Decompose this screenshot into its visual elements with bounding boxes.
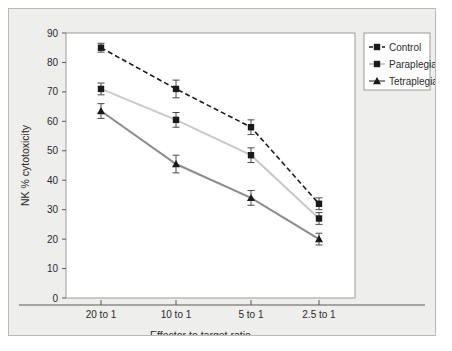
data-point-marker	[98, 45, 104, 51]
y-axis: 0102030405060708090	[47, 28, 66, 304]
x-axis-tick-label: 10 to 1	[161, 309, 192, 320]
nk-cytotoxicity-chart: 0102030405060708090NK % cytotoxicity20 t…	[9, 9, 435, 335]
data-point-marker	[248, 124, 254, 130]
legend-label: Tetraplegia	[389, 76, 435, 87]
y-axis-tick-label: 10	[47, 263, 59, 274]
y-axis-tick-label: 30	[47, 204, 59, 215]
y-axis-tick-label: 40	[47, 175, 59, 186]
data-point-marker	[248, 152, 254, 158]
legend-marker	[374, 61, 380, 67]
x-axis: 20 to 110 to 15 to 12.5 to 1	[19, 300, 425, 320]
y-axis-tick-label: 80	[47, 57, 59, 68]
plot-area-background	[66, 33, 355, 298]
legend-label: Control	[389, 42, 421, 53]
y-axis-title: NK % cytotoxicity	[19, 124, 31, 206]
y-axis-tick-label: 50	[47, 145, 59, 156]
legend-marker	[374, 44, 380, 50]
legend: ControlParaplegiaTetraplegia	[364, 33, 435, 90]
y-axis-tick-label: 0	[52, 293, 58, 304]
data-point-marker	[173, 86, 179, 92]
y-axis-tick-label: 90	[47, 28, 59, 39]
x-axis-title: Effector to target ratio	[150, 329, 251, 335]
data-point-marker	[173, 117, 179, 123]
x-axis-tick-label: 20 to 1	[86, 309, 117, 320]
y-axis-tick-label: 60	[47, 116, 59, 127]
x-axis-tick-label: 2.5 to 1	[302, 309, 336, 320]
figure-panel: 0102030405060708090NK % cytotoxicity20 t…	[8, 8, 436, 336]
legend-label: Paraplegia	[389, 59, 435, 70]
y-axis-tick-label: 20	[47, 234, 59, 245]
x-axis-tick-label: 5 to 1	[238, 309, 263, 320]
data-point-marker	[316, 201, 322, 207]
y-axis-tick-label: 70	[47, 86, 59, 97]
data-point-marker	[98, 86, 104, 92]
data-point-marker	[316, 215, 322, 221]
